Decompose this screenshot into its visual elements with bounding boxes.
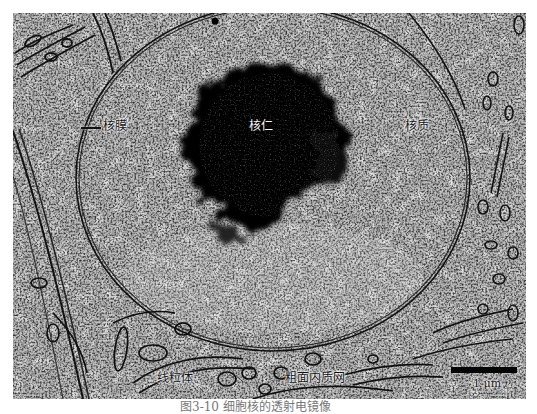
label-mitochondrion: 线粒体 [157, 372, 193, 385]
micrograph [13, 13, 526, 399]
scale-bar-label: 1 μm [473, 377, 501, 390]
label-nucleolus: 核仁 [249, 120, 273, 133]
scale-bar [451, 367, 517, 373]
label-rough-er: 粗面内质网 [285, 372, 345, 385]
label-nuclear-envelope: 核膜 [103, 120, 127, 133]
nuclear-envelope-leader-line [81, 127, 101, 129]
micrograph-texture [13, 13, 526, 399]
label-nucleoplasm: 核质 [405, 120, 429, 133]
figure-caption: 图3-10 细胞核的透射电镜像 [180, 400, 390, 414]
